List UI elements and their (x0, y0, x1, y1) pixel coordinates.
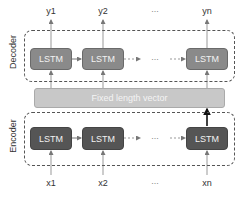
decoder-lstm-n: LSTM (186, 48, 228, 70)
encoder-ellipsis: ... (145, 131, 165, 141)
output-yn: yn (197, 6, 217, 16)
encoder-lstm-n: LSTM (186, 127, 228, 150)
output-ellipsis: ... (145, 4, 165, 14)
output-y1: y1 (41, 6, 61, 16)
encoder-label: Encoder (8, 119, 18, 153)
encoder-lstm-2: LSTM (82, 127, 124, 150)
decoder-ellipsis: ... (145, 52, 165, 62)
fixed-length-vector: Fixed length vector (34, 88, 225, 108)
decoder-lstm-2: LSTM (82, 48, 124, 70)
encoder-lstm-1: LSTM (30, 127, 72, 150)
input-ellipsis: ... (145, 176, 165, 186)
output-y2: y2 (93, 6, 113, 16)
decoder-label: Decoder (8, 35, 18, 69)
input-x2: x2 (93, 178, 113, 188)
decoder-lstm-1: LSTM (30, 48, 72, 70)
input-xn: xn (197, 178, 217, 188)
input-x1: x1 (41, 178, 61, 188)
